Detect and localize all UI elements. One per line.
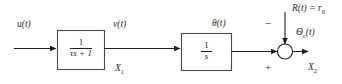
input-signal-label: u(t) [17,20,31,30]
integrator-numerator: 1 [201,41,212,52]
state-two-label: X2 [308,63,317,74]
first-block-denominator: τs + 1 [70,49,92,59]
summing-junction-circle [278,44,293,59]
error-output-argument: (t) [306,27,315,37]
diagram-canvas [0,0,342,84]
state-one-label: X1 [115,64,124,75]
summing-junction-minus-sign: − [265,18,271,29]
reference-input-subscript: 0 [322,8,325,15]
integrator-denominator: s [201,52,212,62]
error-output-label: Θc(t) [296,28,315,39]
reference-input-expression: R(t) = r [292,3,322,13]
block-diagram: u(t) 1 τs + 1 v(t) X1 1 s θ(t) − + R(t) … [0,0,342,84]
first-order-lag-expression: 1 τs + 1 [58,38,105,59]
state-one-subscript: 1 [121,68,124,75]
integrator-expression: 1 s [182,41,232,62]
state-two-subscript: 2 [314,67,317,74]
first-block-numerator: 1 [70,38,92,49]
reference-input-label: R(t) = r0 [292,4,325,15]
error-output-symbol: Θ [296,27,303,37]
theta-signal-label: θ(t) [212,19,226,29]
summing-junction-plus-sign: + [265,62,271,73]
intermediate-signal-label: v(t) [113,20,126,30]
